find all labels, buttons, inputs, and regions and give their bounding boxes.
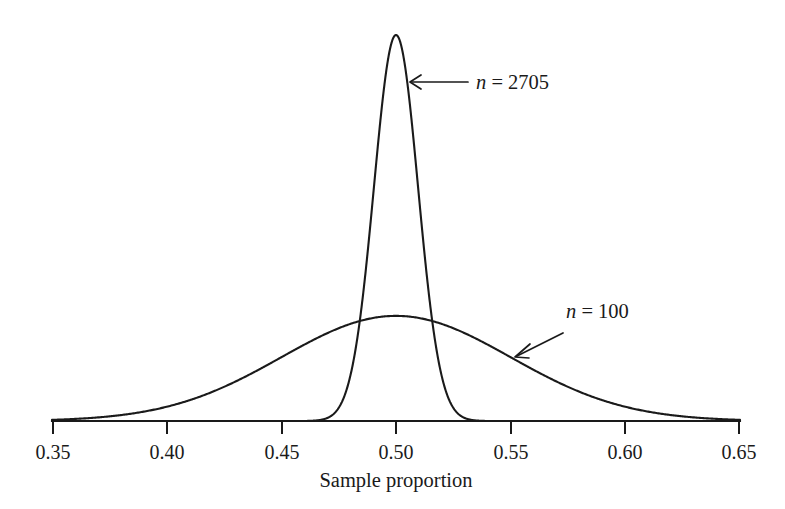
normal-curves-chart: 0.35 0.40 0.45 0.50 0.55 0.60 0.65 Sampl… — [0, 0, 785, 509]
tick-label-3: 0.50 — [379, 441, 414, 463]
annotation-label-n-2705: n = 2705 — [476, 71, 549, 93]
curve-n-100 — [52, 316, 740, 420]
tick-label-5: 0.60 — [608, 441, 643, 463]
tick-label-4: 0.55 — [494, 441, 529, 463]
x-axis-title: Sample proportion — [319, 469, 472, 492]
annotation-var-n-2705: n — [476, 71, 486, 93]
leader-line-n-100 — [517, 333, 563, 356]
annotation-label-n-100: n = 100 — [566, 300, 629, 322]
tick-label-2: 0.45 — [265, 441, 300, 463]
tick-label-0: 0.35 — [36, 441, 71, 463]
x-axis-tick-labels: 0.35 0.40 0.45 0.50 0.55 0.60 0.65 — [36, 441, 757, 463]
sampling-distribution-figure: 0.35 0.40 0.45 0.50 0.55 0.60 0.65 Sampl… — [0, 0, 785, 509]
curve-n-2705 — [308, 35, 485, 421]
annotation-value-n-2705: = 2705 — [486, 71, 549, 93]
annotation-n-100: n = 100 — [515, 300, 629, 358]
annotation-n-2705: n = 2705 — [410, 71, 549, 93]
annotation-value-n-100: = 100 — [576, 300, 629, 322]
x-axis-ticks — [53, 421, 739, 433]
tick-label-1: 0.40 — [150, 441, 185, 463]
annotation-var-n-100: n — [566, 300, 576, 322]
tick-label-6: 0.65 — [722, 441, 757, 463]
